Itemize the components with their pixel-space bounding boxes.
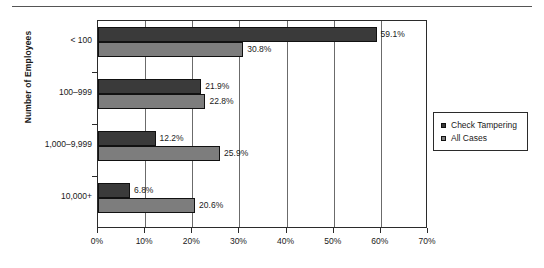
- y-axis-tick: [92, 124, 97, 125]
- x-axis-tick: [333, 228, 334, 233]
- legend-item-label: Check Tampering: [451, 120, 517, 130]
- x-axis-tick: [380, 228, 381, 233]
- y-axis-tick: [92, 72, 97, 73]
- bar: [98, 183, 130, 198]
- x-axis-tick: [97, 228, 98, 233]
- bar-group: 12.2%25.9%: [98, 131, 426, 161]
- y-axis-category-label: 10,000+: [61, 191, 92, 201]
- legend-item-label: All Cases: [451, 133, 487, 143]
- x-axis-tick-label: 20%: [171, 236, 211, 246]
- top-divider-rule: [12, 6, 532, 7]
- y-axis-title: Number of Employees: [23, 0, 33, 157]
- chart-figure: Number of Employees 59.1%30.8%21.9%22.8%…: [0, 0, 544, 268]
- bar-value-label: 30.8%: [247, 42, 271, 57]
- x-axis-tick-label: 30%: [218, 236, 258, 246]
- bar-value-label: 12.2%: [160, 131, 184, 146]
- bar-value-label: 6.8%: [134, 183, 153, 198]
- x-axis-tick-label: 60%: [360, 236, 400, 246]
- bar-group: 21.9%22.8%: [98, 79, 426, 109]
- legend-swatch-icon: [441, 123, 446, 128]
- bar-value-label: 25.9%: [224, 146, 248, 161]
- y-axis-category-label: 1,000–9,999: [45, 139, 92, 149]
- chart-legend: Check TamperingAll Cases: [433, 112, 528, 151]
- legend-item: All Cases: [441, 132, 521, 144]
- bar-value-label: 20.6%: [199, 198, 223, 213]
- bar-group: 59.1%30.8%: [98, 27, 426, 57]
- bar: [98, 146, 220, 161]
- bar-value-label: 22.8%: [209, 94, 233, 109]
- bar: [98, 79, 201, 94]
- y-axis-category-label: 100–999: [59, 87, 92, 97]
- x-axis-tick-label: 70%: [407, 236, 447, 246]
- x-axis-tick-label: 10%: [124, 236, 164, 246]
- x-axis-tick: [286, 228, 287, 233]
- legend-swatch-icon: [441, 136, 446, 141]
- bar: [98, 94, 205, 109]
- x-axis-tick-label: 0%: [77, 236, 117, 246]
- x-axis-tick-label: 40%: [266, 236, 306, 246]
- bars-layer: 59.1%30.8%21.9%22.8%12.2%25.9%6.8%20.6%: [98, 21, 426, 227]
- x-axis-tick: [427, 228, 428, 233]
- bar-value-label: 59.1%: [381, 27, 405, 42]
- legend-item: Check Tampering: [441, 119, 521, 131]
- bar: [98, 198, 195, 213]
- bar-group: 6.8%20.6%: [98, 183, 426, 213]
- x-axis-tick: [238, 228, 239, 233]
- x-axis-tick: [144, 228, 145, 233]
- bar: [98, 27, 377, 42]
- plot-area: 59.1%30.8%21.9%22.8%12.2%25.9%6.8%20.6%: [97, 20, 427, 228]
- bar: [98, 42, 243, 57]
- x-axis-tick: [191, 228, 192, 233]
- y-axis-tick: [92, 176, 97, 177]
- bar: [98, 131, 156, 146]
- bar-value-label: 21.9%: [205, 79, 229, 94]
- x-axis-tick-label: 50%: [313, 236, 353, 246]
- y-axis-category-label: < 100: [70, 35, 92, 45]
